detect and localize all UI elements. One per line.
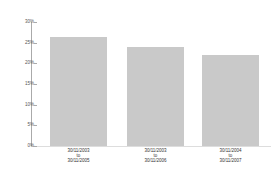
y-tick-label: 10% <box>10 102 34 107</box>
bar <box>127 47 184 146</box>
y-tick-label: 15% <box>10 81 34 86</box>
y-tick-label: 30% <box>10 19 34 24</box>
y-tick-label: 20% <box>10 60 34 65</box>
bar <box>50 37 107 146</box>
x-axis <box>31 146 271 147</box>
x-tick-label: 30/11/2003to30/11/2006 <box>126 148 186 163</box>
y-tick-label: 25% <box>10 40 34 45</box>
bar <box>202 55 259 146</box>
x-tick-label: 30/11/2003to30/11/2005 <box>49 148 109 163</box>
x-tick-label: 30/11/2004to30/11/2007 <box>201 148 261 163</box>
y-tick-label: 5% <box>10 122 34 127</box>
y-tick-label: 0% <box>10 143 34 148</box>
